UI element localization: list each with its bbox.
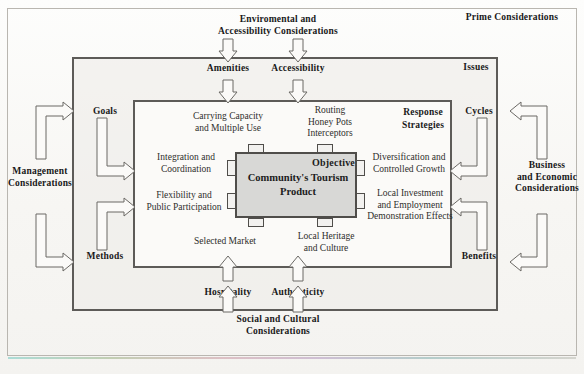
label-local-heritage-culture: Local Heritage and Culture xyxy=(282,231,370,254)
label-social-cultural-considerations: Social and Cultural Considerations xyxy=(190,314,366,337)
core-objective-label: Objective xyxy=(237,157,355,168)
label-issues: Issues xyxy=(455,62,497,74)
label-authenticity: Authenticity xyxy=(262,287,334,299)
label-response-strategies: Response Strategies xyxy=(387,106,459,131)
label-amenities: Amenities xyxy=(192,63,264,75)
label-methods: Methods xyxy=(78,251,132,263)
label-local-investment-employment: Local Investment and Employment Demonstr… xyxy=(356,188,464,223)
label-business-economic-considerations: Business and Economic Considerations xyxy=(512,160,582,195)
label-accessibility: Accessibility xyxy=(262,63,334,75)
label-hospitality: Hospitality xyxy=(192,287,264,299)
core-objective-box: Objective Community's Tourism Product xyxy=(235,152,357,218)
label-benefits: Benefits xyxy=(452,251,506,263)
label-integration-coordination: Integration and Coordination xyxy=(136,152,236,175)
label-goals: Goals xyxy=(82,106,128,118)
label-diversification-controlled-growth: Diversification and Controlled Growth xyxy=(358,152,460,175)
scan-artifact-stripe xyxy=(8,357,576,359)
label-carrying-capacity-multiple-use: Carrying Capacity and Multiple Use xyxy=(168,111,288,134)
label-routing-honeypots-interceptors: Routing Honey Pots Interceptors xyxy=(286,105,374,140)
label-management-considerations: Management Considerations xyxy=(6,166,74,189)
label-selected-market: Selected Market xyxy=(178,236,272,248)
label-cycles: Cycles xyxy=(456,106,502,118)
core-tab-bottom-left xyxy=(248,218,264,227)
diagram-canvas: Objective Community's Tourism Product Pr… xyxy=(0,0,584,374)
label-environmental-accessibility-considerations: Enviromental and Accessibility Considera… xyxy=(188,14,368,37)
label-prime-considerations: Prime Considerations xyxy=(452,12,572,24)
label-flexibility-public-participation: Flexibility and Public Participation xyxy=(132,190,236,213)
core-tab-bottom-right xyxy=(317,218,333,227)
core-title-label: Community's Tourism Product xyxy=(237,171,359,198)
